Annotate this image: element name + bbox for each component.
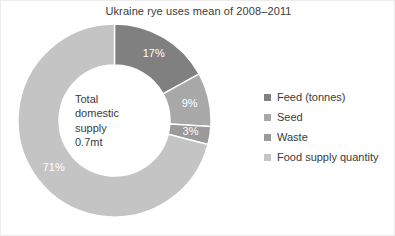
legend-item[interactable]: Food supply quantity <box>264 147 394 167</box>
donut-slices <box>18 24 211 217</box>
legend-swatch-icon <box>264 114 271 121</box>
donut-slice-value-label: 17% <box>143 47 165 59</box>
legend-item-label: Food supply quantity <box>277 151 379 164</box>
legend-swatch-icon <box>264 154 271 161</box>
legend-item[interactable]: Feed (tonnes) <box>264 87 394 107</box>
chart-title: Ukraine rye uses mean of 2008–2011 <box>1 4 395 18</box>
legend-swatch-icon <box>264 94 271 101</box>
legend-item[interactable]: Waste <box>264 127 394 147</box>
chart-figure: Ukraine rye uses mean of 2008–2011 17%9%… <box>0 0 395 236</box>
legend-swatch-icon <box>264 134 271 141</box>
legend-item-label: Feed (tonnes) <box>277 91 345 104</box>
donut-chart: 17%9%3%71% <box>17 23 212 218</box>
donut-slice-value-label: 3% <box>183 125 199 137</box>
chart-legend: Feed (tonnes)SeedWasteFood supply quanti… <box>264 87 394 167</box>
legend-item[interactable]: Seed <box>264 107 394 127</box>
legend-item-label: Waste <box>277 131 308 144</box>
donut-svg: 17%9%3%71% <box>17 23 212 218</box>
legend-item-label: Seed <box>277 111 303 124</box>
donut-slice-value-label: 71% <box>43 161 65 173</box>
donut-slice-value-label: 9% <box>182 97 198 109</box>
